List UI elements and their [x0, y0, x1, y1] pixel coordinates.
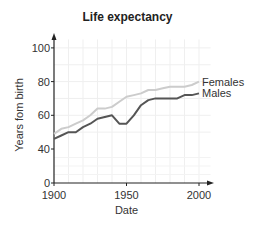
line-chart: 0406080100190019502000DateYears fom birt…	[0, 0, 255, 225]
legend-label-females: Females	[202, 76, 245, 88]
y-tick-label: 60	[38, 109, 50, 121]
y-axis-label: Years fom birth	[13, 78, 25, 152]
x-tick-label: 1900	[42, 189, 66, 201]
x-tick-label: 1950	[114, 189, 138, 201]
x-axis-label: Date	[115, 204, 138, 216]
chart-container: Life expectancy 0406080100190019502000Da…	[0, 0, 255, 225]
legend-label-males: Males	[202, 87, 232, 99]
y-axis-arrow-icon	[52, 33, 57, 40]
y-tick-label: 0	[44, 177, 50, 189]
y-tick-label: 100	[32, 42, 50, 54]
x-tick-label: 2000	[187, 189, 211, 201]
y-tick-label: 80	[38, 76, 50, 88]
y-tick-label: 40	[38, 143, 50, 155]
x-axis-arrow-icon	[207, 181, 214, 186]
